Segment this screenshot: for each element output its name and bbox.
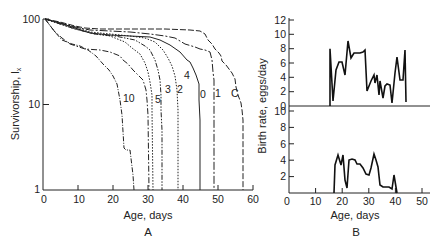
panel-b-y-label: Birth rate, eggs/day: [256, 58, 268, 154]
panel-b-bottom-ytick-2: 2: [280, 170, 286, 182]
curve-label-10: 10: [123, 92, 135, 104]
panel-a-y-label: Survivorship, lx: [9, 67, 22, 140]
panel-a-xtick-50: 50: [212, 193, 224, 205]
panel-a-xtick-60: 60: [247, 193, 259, 205]
curve-10: [45, 19, 134, 190]
panel-b-bottom-ytick-6: 6: [280, 138, 286, 150]
curve-1: [45, 19, 214, 190]
panel-b-xtick-0: 0: [284, 195, 290, 207]
curve-label-5: 5: [155, 93, 161, 105]
curve-label-c: C: [231, 87, 239, 99]
panel-b-xtick-20: 20: [336, 195, 348, 207]
curve-label-4: 4: [184, 69, 190, 81]
panel-b-xtick-50: 50: [416, 195, 428, 207]
panel-b-bottom-ytick-8: 8: [280, 121, 286, 133]
panel-b-top-ytick-2: 2: [280, 85, 286, 97]
panel-a-ytick-10: 10: [28, 98, 40, 110]
panel-a-x-label: Age, days: [124, 209, 173, 221]
panel-a-xtick-0: 0: [41, 193, 47, 205]
curve-5: [45, 19, 149, 190]
panel-b: 12 10 8 6 4 2 0 10 8 6 4 2 0 10 20 30 40…: [256, 14, 430, 238]
panel-b-xtick-30: 30: [363, 195, 375, 207]
birth-rate-upper-line: [330, 41, 406, 106]
panel-b-top-ytick-4: 4: [280, 71, 286, 83]
curve-label-2: 2: [177, 83, 183, 95]
panel-b-xtick-10: 10: [310, 195, 322, 207]
panel-b-top-ytick-10: 10: [274, 28, 286, 40]
panel-b-top-ytick-6: 6: [280, 57, 286, 69]
panel-b-letter: B: [352, 226, 360, 238]
panel-a-xtick-10: 10: [73, 193, 85, 205]
panel-b-bottom-ytick-10: 10: [274, 105, 286, 117]
panel-b-bottom-ytick-4: 4: [280, 154, 286, 166]
panel-b-top-ytick-12: 12: [274, 14, 286, 26]
curve-label-1: 1: [215, 87, 221, 99]
panel-a-xtick-40: 40: [177, 193, 189, 205]
panel-b-x-label: Age, days: [331, 209, 380, 221]
panel-a: 100 10 1 0 10 20 30 40 50 60 Age, days A…: [9, 13, 259, 238]
panel-b-xtick-40: 40: [390, 195, 402, 207]
panel-a-ytick-1: 1: [34, 183, 40, 195]
curve-label-3: 3: [165, 83, 171, 95]
panel-a-curves: [45, 19, 243, 190]
figure: 100 10 1 0 10 20 30 40 50 60 Age, days A…: [0, 0, 444, 248]
curve-3: [45, 19, 153, 190]
panel-a-xtick-30: 30: [142, 193, 154, 205]
panel-a-letter: A: [144, 226, 152, 238]
panel-a-ytick-100: 100: [22, 13, 40, 25]
curve-0: [45, 19, 200, 190]
panel-b-top-ytick-8: 8: [280, 42, 286, 54]
curve-2: [45, 19, 162, 190]
curve-label-0: 0: [200, 88, 206, 100]
panel-a-xtick-20: 20: [107, 193, 119, 205]
birth-rate-lower-line: [334, 154, 397, 193]
